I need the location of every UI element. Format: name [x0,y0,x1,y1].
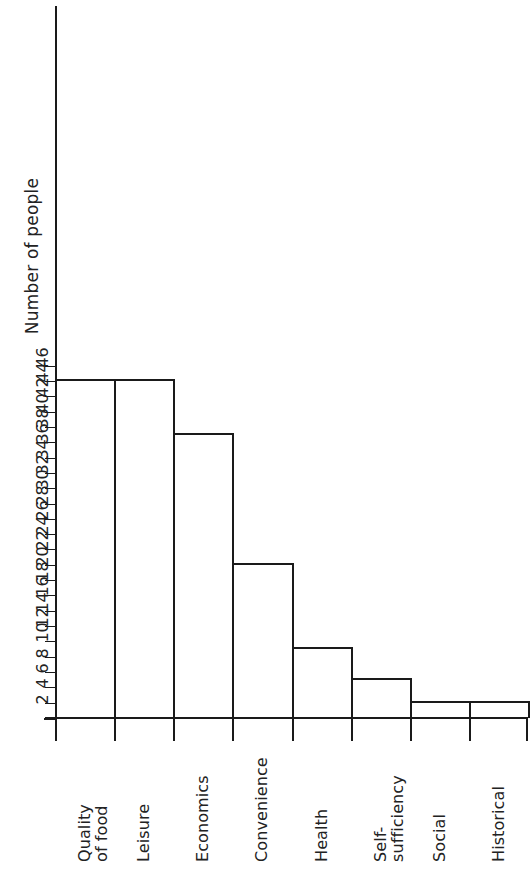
x-axis-label-5: Self- sufficiency [372,775,406,862]
bar-0 [55,379,116,718]
bar-1 [114,379,175,718]
bar-6 [410,701,471,718]
plot-area [55,6,528,718]
bar-5 [351,678,412,718]
x-divider-2 [173,719,175,741]
x-axis-label-2: Economics [194,775,211,862]
bar-3 [232,563,293,718]
x-divider-6 [410,719,412,741]
x-axis-label-1: Leisure [135,804,152,862]
x-divider-4 [292,719,294,741]
x-divider-8 [526,719,528,741]
y-axis-title: Number of people [22,146,42,366]
x-divider-5 [351,719,353,741]
x-axis-label-6: Social [431,814,448,862]
bar-2 [173,433,234,718]
bar-7 [469,701,530,718]
x-axis-label-3: Convenience [253,757,270,862]
x-axis-label-4: Health [313,809,330,862]
x-divider-3 [232,719,234,741]
x-divider-0 [55,719,57,741]
x-divider-7 [469,719,471,741]
x-axis-label-7: Historical [490,786,507,862]
x-axis-label-0: Quality of food [76,804,110,862]
y-tick-0 [44,718,55,720]
x-divider-1 [114,719,116,741]
bar-4 [292,647,353,718]
